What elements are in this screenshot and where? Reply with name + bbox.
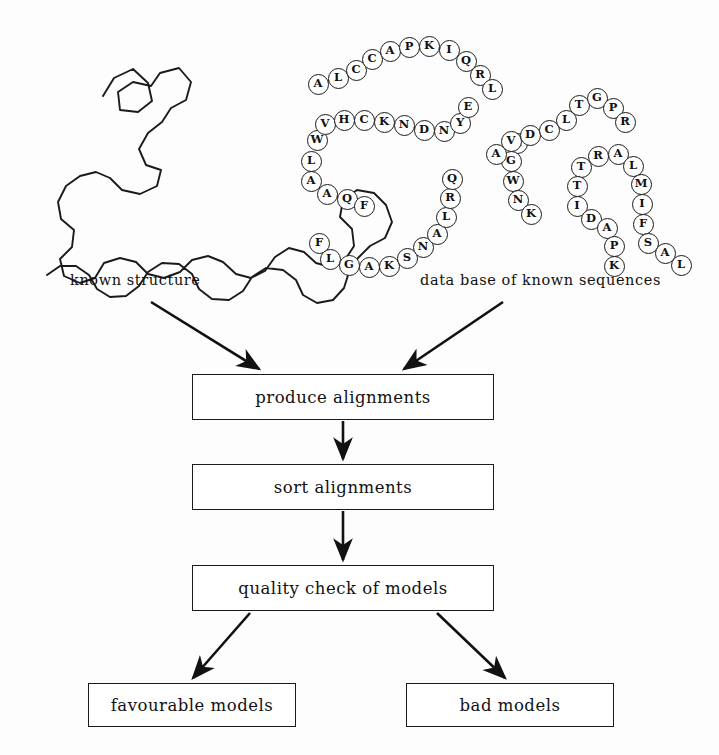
sequence-bead: K [374,112,395,133]
sequence-bead: L [436,207,457,228]
flow-box-sort-alignments[interactable]: sort alignments [192,464,494,510]
sequence-bead: P [604,236,625,257]
sequence-bead: D [414,120,435,141]
flow-box-produce-alignments[interactable]: produce alignments [192,374,494,420]
arrow-structure-to-produce [151,302,259,369]
sequence-bead: A [308,74,329,95]
flow-box-favourable-models[interactable]: favourable models [88,683,296,727]
caption-known-structure: known structure [70,272,201,288]
sequence-bead: F [633,214,654,235]
sequence-bead: Q [442,169,463,190]
sequence-bead: R [588,146,609,167]
sequence-bead: W [503,171,524,192]
sequence-bead: V [501,131,522,152]
sequence-bead: T [567,176,588,197]
sequence-bead: G [339,255,360,276]
caption-known-sequences: data base of known sequences [420,272,661,288]
sequence-bead: A [359,257,380,278]
sequence-bead: R [440,188,461,209]
arrow-quality-to-bad [437,613,505,678]
sequence-bead: A [380,41,401,62]
sequence-bead: N [394,115,415,136]
arrow-database-to-produce [404,302,503,369]
sequence-bead: M [631,174,652,195]
sequence-bead: L [320,249,341,270]
sequence-bead: H [334,110,355,131]
arrow-quality-to-favourable [193,613,250,678]
flow-box-quality-check-of-models[interactable]: quality check of models [192,565,494,611]
flow-box-bad-models[interactable]: bad models [406,683,614,727]
sequence-bead: K [521,204,542,225]
figure-root: ALCCAPKIQRLWVHCKNDNYELAAQFFLGAKSNALRQAGW… [0,0,719,755]
sequence-bead: E [458,97,479,118]
sequence-bead: A [317,184,338,205]
sequence-bead: C [354,110,375,131]
sequence-bead: L [482,79,503,100]
sequence-bead: I [632,194,653,215]
sequence-bead: P [399,37,420,58]
sequence-bead: F [354,196,375,217]
sequence-bead: V [315,114,336,135]
sequence-bead: K [419,36,440,57]
sequence-bead: D [520,125,541,146]
sequence-bead: L [671,255,692,276]
sequence-bead: R [615,112,636,133]
sequence-bead: L [301,151,322,172]
